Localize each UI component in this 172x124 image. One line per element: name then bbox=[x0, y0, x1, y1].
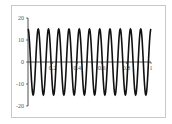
y-tick-label: 20 bbox=[18, 15, 24, 21]
x-tick-label: 1 bbox=[150, 65, 153, 71]
y-tick-label: 0 bbox=[21, 59, 24, 65]
y-tick-label: 10 bbox=[18, 37, 24, 43]
line-chart: 20100-10-20 0.20.40.60.81 bbox=[0, 0, 172, 124]
y-tick-label: -20 bbox=[16, 103, 24, 109]
y-tick-label: -10 bbox=[16, 81, 24, 87]
y-axis: 20100-10-20 bbox=[16, 15, 28, 109]
